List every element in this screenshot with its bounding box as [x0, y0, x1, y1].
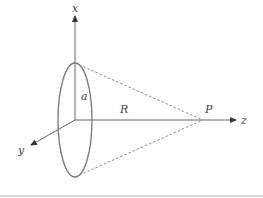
y-axis-label: y [17, 144, 25, 157]
ring-diagram: x z y a R P [0, 0, 263, 198]
radius-label: a [81, 90, 88, 103]
z-axis-label: z [240, 114, 247, 127]
distance-label: R [119, 103, 128, 116]
y-axis [31, 120, 75, 145]
dashed-line-bottom [75, 120, 203, 177]
dashed-line-top [75, 63, 203, 120]
point-label: P [204, 103, 213, 116]
x-axis-label: x [72, 2, 79, 15]
